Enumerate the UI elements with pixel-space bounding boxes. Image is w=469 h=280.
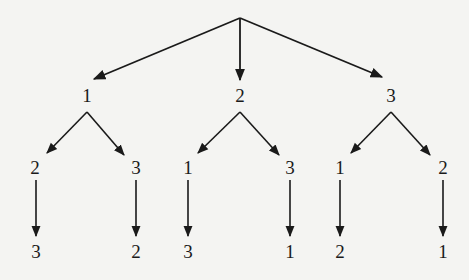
- tree-edges: [0, 0, 469, 280]
- node-l1-2: 3: [386, 86, 396, 105]
- node-l3-5: 1: [438, 242, 448, 261]
- node-l2-0: 2: [30, 158, 40, 177]
- edge-2-3: [240, 112, 279, 155]
- node-l3-2: 3: [183, 242, 193, 261]
- node-l1-1: 2: [235, 86, 245, 105]
- edge-3-2: [391, 112, 430, 155]
- node-l2-4: 1: [335, 158, 345, 177]
- edge-2-1: [198, 112, 240, 153]
- edge-root-3: [240, 18, 382, 77]
- node-l3-3: 1: [285, 242, 295, 261]
- node-l1-0: 1: [82, 86, 92, 105]
- node-l2-3: 3: [285, 158, 295, 177]
- edge-1-3: [87, 112, 124, 155]
- node-l2-5: 2: [438, 158, 448, 177]
- permutation-tree-diagram: 1 2 3 2 3 1 3 1 2 3 2 3 1 2 1: [0, 0, 469, 280]
- edge-3-1: [351, 112, 391, 153]
- node-l2-2: 1: [183, 158, 193, 177]
- node-l3-4: 2: [335, 242, 345, 261]
- edge-1-2: [47, 112, 87, 153]
- node-l3-1: 2: [131, 242, 141, 261]
- node-l2-1: 3: [131, 158, 141, 177]
- edge-root-1: [94, 18, 240, 79]
- node-l3-0: 3: [31, 242, 41, 261]
